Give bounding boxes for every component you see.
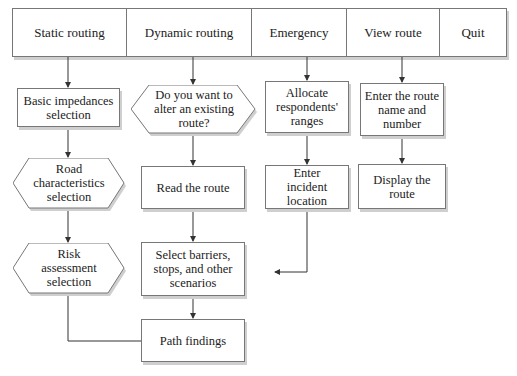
enter-incident-box: Enter incident location xyxy=(265,165,349,209)
basic-impedances-box: Basic impedances selection xyxy=(17,88,120,127)
risk-assessment-hexagon: Risk assessment selection xyxy=(13,243,125,295)
node-text: Display the route xyxy=(367,173,437,201)
read-route-box: Read the route xyxy=(141,166,245,209)
node-text: Select barriers, stops, and other scenar… xyxy=(148,248,238,290)
allocate-ranges-box: Allocate respondents' ranges xyxy=(265,81,349,133)
node-text: Enter the route name and number xyxy=(362,89,442,131)
flowchart: Static routing Dynamic routing Emergency… xyxy=(0,0,517,376)
enter-route-name-box: Enter the route name and number xyxy=(360,83,444,136)
road-characteristics-hexagon: Road characteristics selection xyxy=(13,158,125,210)
node-text: Allocate respondents' ranges xyxy=(269,86,345,128)
node-text: Basic impedances selection xyxy=(18,94,119,122)
path-findings-box: Path findings xyxy=(141,319,245,362)
node-text: Enter incident location xyxy=(277,166,337,208)
select-barriers-box: Select barriers, stops, and other scenar… xyxy=(141,242,245,296)
node-text: Do you want to alter an existing route? xyxy=(154,88,234,130)
node-text: Road characteristics selection xyxy=(29,162,109,204)
display-route-box: Display the route xyxy=(358,164,446,209)
alter-route-decision-hexagon: Do you want to alter an existing route? xyxy=(131,85,257,135)
node-text: Read the route xyxy=(157,181,230,195)
node-text: Path findings xyxy=(160,334,226,348)
node-text: Risk assessment selection xyxy=(34,247,104,289)
